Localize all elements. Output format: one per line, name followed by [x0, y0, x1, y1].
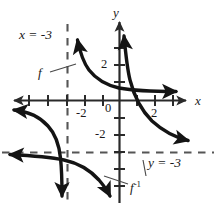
y-tick-label-minus-2: -2: [95, 128, 105, 141]
y-tick-label-2: 2: [101, 58, 107, 71]
y-axis: [114, 22, 125, 203]
leader-line-f: [50, 64, 76, 72]
graph-figure: x = -3 y = -3 x y f f-1 -2 2 2 -2 0: [0, 0, 216, 207]
leader-line-f-inverse-vertical: [143, 160, 146, 176]
curve-f-inverse: [10, 110, 110, 196]
asymptote-label-x-equals-minus-3: x = -3: [19, 28, 52, 42]
curve-label-f-inverse: f-1: [130, 180, 141, 194]
curve-label-f-inverse-exponent: -1: [134, 179, 142, 189]
x-tick-label-minus-2: -2: [76, 107, 86, 120]
asymptote-label-y-equals-minus-3: y = -3: [148, 156, 181, 170]
x-tick-label-2: 2: [151, 107, 157, 120]
curve-label-f: f: [38, 66, 42, 79]
leader-line-f-inverse: [104, 176, 128, 184]
curve-f-right-branch: [124, 36, 188, 141]
curve-f: [78, 36, 189, 141]
origin-label: 0: [105, 102, 111, 115]
x-axis: [14, 95, 186, 106]
x-axis-label: x: [195, 94, 201, 107]
y-axis-label: y: [113, 6, 119, 19]
